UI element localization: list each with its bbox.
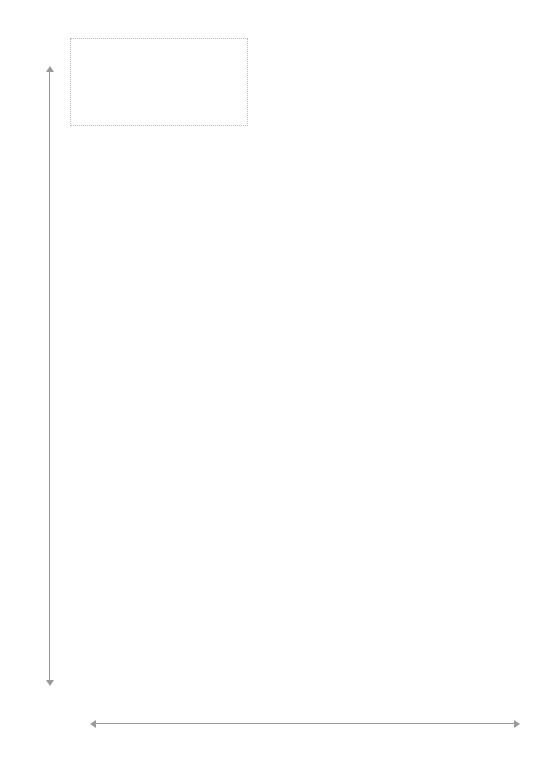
arrow-left-icon [90,720,96,728]
arrow-up-icon [46,66,54,72]
time-axis-line [95,723,515,724]
main-frame [70,38,248,126]
space-axis-line [49,70,50,682]
arrow-right-icon [514,720,520,728]
arrow-down-icon [46,680,54,686]
